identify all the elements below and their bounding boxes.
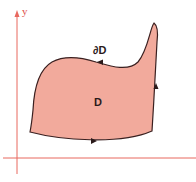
region-label: D	[94, 97, 102, 108]
y-axis-label: y	[22, 6, 28, 17]
boundary-label: ∂D	[93, 45, 106, 56]
region-d	[30, 23, 158, 140]
y-axis-arrow-icon	[15, 10, 20, 17]
diagram-canvas	[0, 0, 196, 182]
